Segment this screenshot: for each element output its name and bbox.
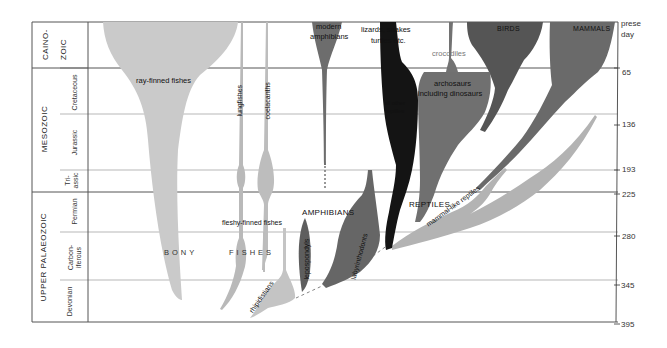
label-ray-finned-fishes: ray-finned fishes (136, 77, 191, 85)
phylogeny-diagram: CAINO- ZOIC MESOZOIC UPPER PALAEOZOIC Cr… (0, 0, 667, 348)
diagram-graphics (0, 0, 667, 348)
period-carboniferous-2: iferous (75, 238, 84, 278)
era-cainozoic-line1: CAINO- (42, 40, 50, 60)
amphibian-origin-dashed (296, 286, 322, 298)
label-birds: BIRDS (497, 25, 520, 32)
era-cainozoic-line2: ZOIC (60, 40, 68, 60)
label-including-dinosaurs: including dinosaurs (418, 90, 482, 98)
tick-345: 345 (621, 282, 634, 290)
tick-280: 280 (622, 233, 635, 241)
era-cainozoic-2: ZOIC (60, 40, 72, 60)
label-lepospondyls: lepospondyls (303, 232, 310, 280)
label-bony: BONY (164, 249, 197, 257)
coelacanths-shape (257, 22, 274, 270)
label-crocodiles: crocodiles (432, 50, 466, 58)
label-mammals: MAMMALS (573, 25, 611, 32)
label-turtles-etc: turtles etc. (371, 37, 406, 45)
era-mesozoic: MESOZOIC (41, 99, 51, 159)
label-amphibians: AMPHIBIANS (302, 209, 354, 217)
reptiles-black-shape (380, 22, 418, 250)
lungfishes-shape (220, 22, 246, 310)
era-upper-palaeozoic: UPPER PALAEOZOIC (40, 202, 50, 312)
label-fishes: FISHES (229, 249, 274, 257)
tick-present: prese (621, 20, 641, 28)
ray-finned-fishes-shape (103, 22, 238, 300)
tick-193: 193 (622, 166, 635, 174)
tick-65: 65 (622, 69, 631, 77)
tick-395: 395 (621, 321, 634, 329)
period-devonian: Devonian (66, 282, 75, 322)
period-cretaceous: Cretaceous (71, 68, 80, 118)
tick-225: 225 (622, 191, 635, 199)
label-modern-amphibians-1: modern (316, 23, 341, 31)
label-lizards-snakes: lizards, snakes (361, 26, 411, 34)
tick-present-day: day (621, 31, 634, 39)
crocodiles-shape (446, 22, 458, 72)
label-all-other-reptiles-1: all other (384, 100, 405, 106)
modern-amphibians-shape (312, 22, 342, 165)
period-triassic-2: assic (72, 171, 81, 191)
period-permian: Permian (71, 192, 80, 232)
label-all-other-reptiles-2: reptiles (385, 108, 404, 114)
tick-136: 136 (622, 121, 635, 129)
label-modern-amphibians-2: amphibians (310, 33, 348, 41)
period-jurassic: Jurassic (71, 123, 80, 163)
era-cainozoic: CAINO- (42, 40, 54, 60)
label-lungfishes: lungfishes (236, 75, 243, 117)
label-coelacanths: coelacanths (264, 72, 271, 120)
label-archosaurs: archosaurs (434, 80, 471, 88)
label-fleshy-finned-fishes: fleshy-finned fishes (222, 219, 282, 226)
